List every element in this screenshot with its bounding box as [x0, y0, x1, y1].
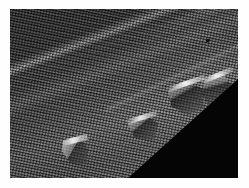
micrograph-page: [0, 0, 249, 188]
contrast-overlay: [10, 9, 238, 178]
micrograph-plate: [10, 9, 238, 178]
